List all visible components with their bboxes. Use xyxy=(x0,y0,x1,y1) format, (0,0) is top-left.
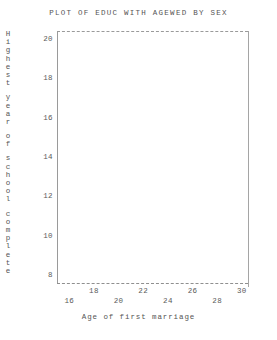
y-axis-title-char: a xyxy=(2,110,14,118)
x-tick-label: 18 xyxy=(89,287,99,295)
x-tick-label: 28 xyxy=(212,297,222,305)
y-axis-title-char: f xyxy=(2,140,14,148)
y-tick-label: 10 xyxy=(43,232,53,240)
x-tick-label: 30 xyxy=(237,287,247,295)
y-axis-title-char: e xyxy=(2,102,14,110)
plot-area xyxy=(58,32,247,282)
y-axis-title-char: e xyxy=(2,267,14,275)
y-tick-label: 8 xyxy=(48,271,53,279)
axis-line-top xyxy=(57,31,248,32)
y-axis-title-char: H xyxy=(2,30,14,38)
y-axis-title-char: h xyxy=(2,171,14,179)
y-axis-title-char: m xyxy=(2,226,14,234)
x-tick-label: 16 xyxy=(64,297,74,305)
y-axis-title-char: o xyxy=(2,179,14,187)
chart-title: PLOT OF EDUC WITH AGEWED BY SEX xyxy=(0,9,277,17)
x-tick-label: 24 xyxy=(163,297,173,305)
x-axis-title: Age of first marriage xyxy=(0,313,277,321)
y-tick-label: 16 xyxy=(43,114,53,122)
x-tick-label: 20 xyxy=(114,297,124,305)
y-axis-title-char: s xyxy=(2,154,14,162)
y-axis-title-char: h xyxy=(2,55,14,63)
y-axis-title-char: o xyxy=(2,187,14,195)
chart-root: PLOT OF EDUC WITH AGEWED BY SEX 20181614… xyxy=(0,0,277,340)
y-axis-title-char: i xyxy=(2,38,14,46)
y-axis-title-char: t xyxy=(2,259,14,267)
y-axis-title-char: g xyxy=(2,46,14,54)
y-tick-label: 20 xyxy=(43,35,53,43)
y-axis-title-char: r xyxy=(2,118,14,126)
y-axis-title-char: o xyxy=(2,218,14,226)
x-axis-tick-labels: 1618202224262830 xyxy=(57,284,248,310)
y-tick-label: 12 xyxy=(43,192,53,200)
axis-line-right xyxy=(248,31,249,287)
y-axis-title-char: o xyxy=(2,132,14,140)
y-tick-label: 18 xyxy=(43,74,53,82)
y-axis-title-char: l xyxy=(2,242,14,250)
y-axis-title-char: e xyxy=(2,251,14,259)
y-tick-label: 14 xyxy=(43,153,53,161)
x-tick-label: 26 xyxy=(188,287,198,295)
y-axis-title-char: c xyxy=(2,210,14,218)
plot-frame xyxy=(57,31,248,283)
y-axis-title-char: s xyxy=(2,71,14,79)
x-tick-label: 22 xyxy=(138,287,148,295)
y-axis-title-char: e xyxy=(2,63,14,71)
axis-line-left xyxy=(57,31,58,283)
y-axis-title-char: t xyxy=(2,79,14,87)
y-axis-title-char: y xyxy=(2,93,14,101)
y-axis-title-char: l xyxy=(2,195,14,203)
y-axis-title-char: c xyxy=(2,163,14,171)
y-axis-title-char: p xyxy=(2,234,14,242)
y-axis-title: Highestyearofschoolcomplete xyxy=(2,30,14,275)
